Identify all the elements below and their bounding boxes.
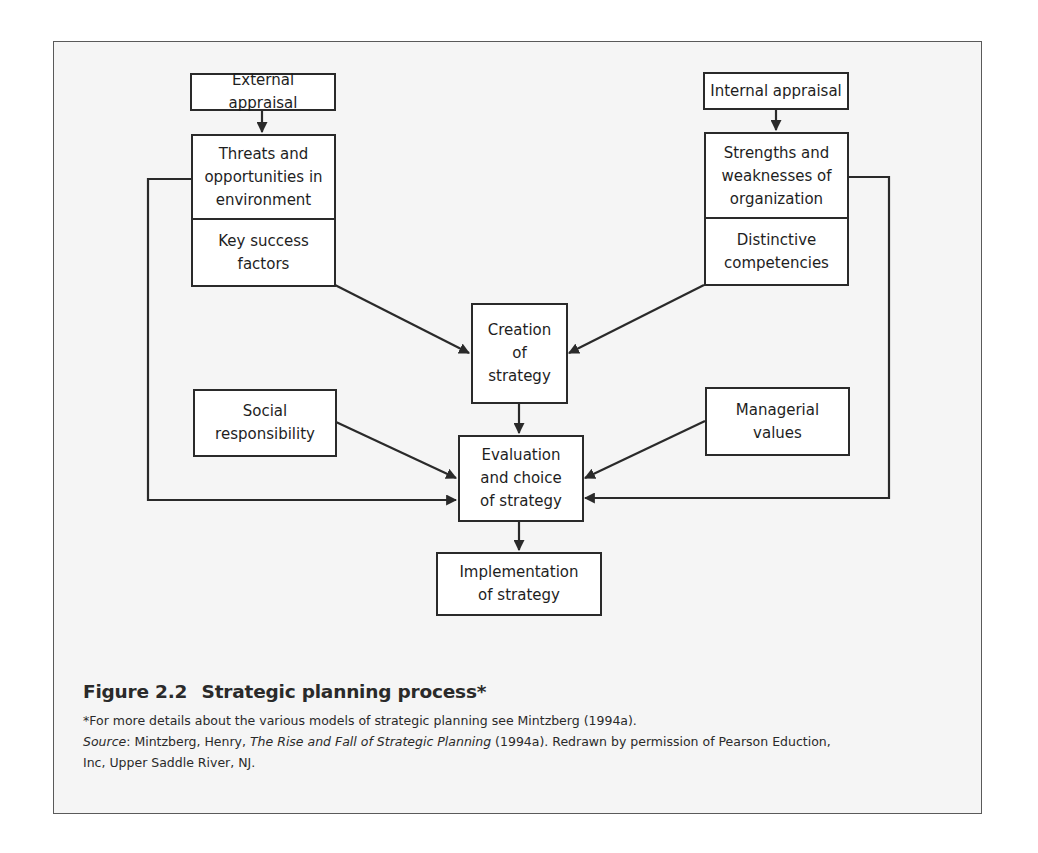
creation-line-1: Creation [488,319,551,342]
figure-caption: Figure 2.2 Strategic planning process* *… [83,681,963,773]
social-responsibility-box: Social responsibility [193,389,337,457]
source-line-2: Inc, Upper Saddle River, NJ. [83,752,963,773]
social-line-2: responsibility [215,423,315,446]
strengths-line-1: Strengths and [721,142,831,165]
social-line-1: Social [215,400,315,423]
arrow-social-to-evaluation [336,422,456,478]
evaluation-line-2: and choice [480,467,562,490]
key-success-line-1: Key success [218,230,309,253]
external-appraisal-label: External appraisal [196,69,330,115]
external-appraisal-box: External appraisal [190,73,336,111]
distinctive-line-1: Distinctive [724,229,829,252]
implementation-box: Implementation of strategy [436,552,602,616]
threats-line-3: environment [204,189,322,212]
arrow-managerial-to-evaluation [585,421,705,478]
arrow-keysuccess-to-creation [335,285,469,353]
source-book-title: The Rise and Fall of Strategic Planning [250,734,491,749]
key-success-factors-box: Key success factors [191,218,336,287]
creation-line-2: of [488,342,551,365]
source-rest: (1994a). Redrawn by permission of Pearso… [491,734,831,749]
strengths-line-2: weaknesses of [721,165,831,188]
source-label: Source [83,734,126,749]
implementation-line-1: Implementation [459,561,578,584]
evaluation-choice-box: Evaluation and choice of strategy [458,435,584,522]
evaluation-line-3: of strategy [480,490,562,513]
strengths-weaknesses-box: Strengths and weaknesses of organization [704,132,849,220]
distinctive-line-2: competencies [724,252,829,275]
internal-appraisal-label: Internal appraisal [710,80,842,103]
creation-line-3: strategy [488,365,551,388]
source-sep: : Mintzberg, Henry, [126,734,250,749]
managerial-values-box: Managerial values [705,387,850,456]
source-line-1: Source: Mintzberg, Henry, The Rise and F… [83,731,963,752]
managerial-line-2: values [736,422,819,445]
figure-title: Figure 2.2 Strategic planning process* [83,681,963,702]
implementation-line-2: of strategy [459,584,578,607]
threats-line-1: Threats and [204,143,322,166]
key-success-line-2: factors [218,253,309,276]
arrow-distinctive-to-creation [569,285,704,353]
threats-opportunities-box: Threats and opportunities in environment [191,134,336,221]
evaluation-line-1: Evaluation [480,444,562,467]
footnote: *For more details about the various mode… [83,710,963,731]
managerial-line-1: Managerial [736,399,819,422]
threats-line-2: opportunities in [204,166,322,189]
strengths-line-3: organization [721,188,831,211]
figure-title-text: Strategic planning process* [202,681,487,702]
creation-of-strategy-box: Creation of strategy [471,303,568,404]
internal-appraisal-box: Internal appraisal [703,72,849,110]
distinctive-competencies-box: Distinctive competencies [704,217,849,286]
figure-number: Figure 2.2 [83,681,187,702]
